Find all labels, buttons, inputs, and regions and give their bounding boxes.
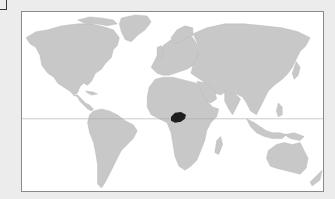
madagascar (215, 137, 223, 155)
greenland (119, 15, 151, 42)
south-america (88, 109, 138, 188)
new-zealand (310, 170, 322, 186)
world-map (21, 11, 324, 192)
north-america (26, 24, 119, 95)
new-guinea (284, 133, 304, 141)
southeast-asia-islands (247, 119, 287, 139)
world-map-svg (22, 12, 323, 191)
australia (266, 143, 308, 175)
central-america (74, 95, 94, 111)
corner-bracket (0, 0, 7, 10)
caribbean (86, 91, 98, 95)
philippines (276, 103, 282, 117)
